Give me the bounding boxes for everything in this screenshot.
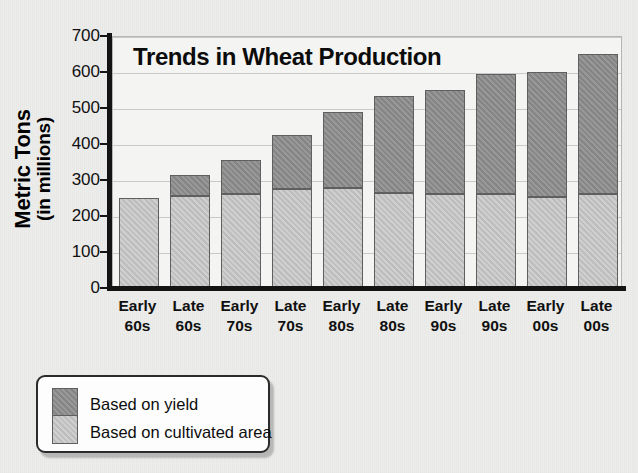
bar-late-00s [578,54,618,287]
x-axis-tick-label-line: Early [214,296,265,316]
legend-swatch-cultivated-area [53,416,77,443]
bar-segment-cultivated-area [527,197,567,287]
bar-segment-cultivated-area [578,194,618,287]
x-axis-tick-label-line: 70s [265,316,316,336]
bar-segment-yield [578,54,618,195]
bar-segment-yield [476,74,516,195]
y-axis-tick-label: 600 [54,63,100,80]
plot-area: Trends in Wheat Production [112,36,622,288]
y-axis-tick-label: 700 [54,27,100,44]
legend: Based on yield Based on cultivated area [36,375,270,453]
chart-title: Trends in Wheat Production [133,43,441,71]
y-axis-tick-label: 500 [54,99,100,116]
x-axis-tick-labels: Early60sLate60sEarly70sLate70sEarly80sLa… [112,296,622,342]
legend-swatch-stack [52,388,78,444]
bar-early-90s [425,90,465,287]
bar-late-90s [476,74,516,287]
bar-segment-cultivated-area [272,189,312,287]
x-axis-tick-label-line: 70s [214,316,265,336]
bar-segment-yield [527,72,567,197]
x-axis-tick-label-line: Early [112,296,163,316]
x-axis-tick-label: Early90s [418,296,469,336]
x-axis-tick-label-line: 90s [418,316,469,336]
bar-segment-yield [374,96,414,193]
x-axis-tick-label-line: Late [163,296,214,316]
bar-early-60s [119,198,159,287]
x-axis-tick-label-line: 80s [367,316,418,336]
y-axis-tick-label: 300 [54,171,100,188]
bar-segment-yield [170,175,210,196]
bar-segment-yield [323,112,363,189]
y-axis-tick-label: 400 [54,135,100,152]
legend-swatch-yield [53,389,77,416]
x-axis-tick-label: Late90s [469,296,520,336]
legend-label-cultivated-area: Based on cultivated area [90,424,272,441]
x-axis-tick-label-line: 60s [112,316,163,336]
bar-segment-cultivated-area [476,194,516,287]
bar-segment-cultivated-area [323,188,363,287]
bar-segment-cultivated-area [119,198,159,287]
x-axis-tick-label-line: 00s [571,316,622,336]
legend-label-yield: Based on yield [90,396,198,413]
y-axis-tick-mark [100,251,107,253]
bar-early-80s [323,112,363,287]
y-axis-tick-label: 100 [54,243,100,260]
x-axis-tick-label-line: Late [571,296,622,316]
y-axis-tick-mark [100,179,107,181]
bar-segment-cultivated-area [374,193,414,287]
y-axis-tick-mark [100,71,107,73]
x-axis-tick-label-line: 80s [316,316,367,336]
bar-late-60s [170,175,210,287]
bar-late-80s [374,96,414,287]
bar-early-00s [527,72,567,287]
bar-segment-cultivated-area [425,194,465,287]
x-axis-tick-label-line: Late [367,296,418,316]
x-axis-tick-label: Late00s [571,296,622,336]
y-axis-title-line1: Metric Tons [12,74,34,264]
x-axis-tick-label: Early80s [316,296,367,336]
x-axis-tick-label-line: Early [316,296,367,316]
x-axis-tick-label-line: Early [418,296,469,316]
bar-segment-yield [272,135,312,189]
bar-late-70s [272,135,312,287]
x-axis-tick-label: Early70s [214,296,265,336]
x-axis-tick-label-line: Late [265,296,316,316]
bar-early-70s [221,160,261,287]
y-axis-tick-label: 0 [54,279,100,296]
x-axis-tick-label-line: 60s [163,316,214,336]
bar-segment-cultivated-area [221,194,261,287]
y-axis-tick-mark [100,143,107,145]
gridline [113,37,621,38]
bar-segment-cultivated-area [170,196,210,287]
y-axis-tick-mark [100,287,107,289]
y-axis-tick-mark [100,215,107,217]
x-axis-line [107,286,626,291]
bar-segment-yield [425,90,465,194]
x-axis-tick-label: Late70s [265,296,316,336]
x-axis-tick-label: Late80s [367,296,418,336]
x-axis-tick-label: Early00s [520,296,571,336]
x-axis-tick-label-line: 00s [520,316,571,336]
x-axis-tick-label-line: Late [469,296,520,316]
y-axis-tick-mark [100,35,107,37]
x-axis-tick-label-line: 90s [469,316,520,336]
y-axis-tick-label: 200 [54,207,100,224]
x-axis-tick-label: Late60s [163,296,214,336]
x-axis-tick-label: Early60s [112,296,163,336]
y-axis-tick-mark [100,107,107,109]
bar-segment-yield [221,160,261,195]
y-axis-line [107,33,112,291]
x-axis-tick-label-line: Early [520,296,571,316]
